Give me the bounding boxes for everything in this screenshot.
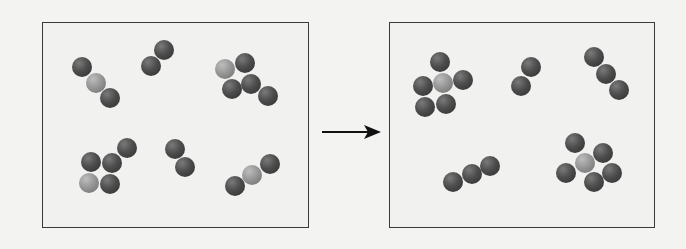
dark-atom-icon (430, 52, 450, 72)
dark-atom-icon (175, 157, 195, 177)
dark-atom-icon (584, 172, 604, 192)
light-atom-icon (433, 73, 453, 93)
dark-atom-icon (602, 163, 622, 183)
dark-atom-icon (413, 76, 433, 96)
dark-atom-icon (556, 163, 576, 183)
dark-atom-icon (225, 176, 245, 196)
dark-atom-icon (593, 143, 613, 163)
dark-atom-icon (258, 86, 278, 106)
light-atom-icon (242, 165, 262, 185)
dark-atom-icon (260, 154, 280, 174)
dark-atom-icon (609, 80, 629, 100)
dark-atom-icon (165, 139, 185, 159)
dark-atom-icon (415, 97, 435, 117)
light-atom-icon (79, 173, 99, 193)
products-panel (389, 22, 655, 228)
reactants-panel (42, 22, 309, 228)
dark-atom-icon (100, 174, 120, 194)
dark-atom-icon (235, 53, 255, 73)
dark-atom-icon (141, 56, 161, 76)
dark-atom-icon (521, 57, 541, 77)
dark-atom-icon (453, 70, 473, 90)
dark-atom-icon (480, 156, 500, 176)
dark-atom-icon (436, 94, 456, 114)
dark-atom-icon (511, 76, 531, 96)
dark-atom-icon (565, 133, 585, 153)
light-atom-icon (215, 59, 235, 79)
dark-atom-icon (443, 172, 463, 192)
reaction-arrow-icon (322, 124, 382, 140)
dark-atom-icon (462, 164, 482, 184)
light-atom-icon (575, 153, 595, 173)
dark-atom-icon (81, 152, 101, 172)
dark-atom-icon (222, 79, 242, 99)
dark-atom-icon (100, 88, 120, 108)
dark-atom-icon (102, 153, 122, 173)
dark-atom-icon (117, 138, 137, 158)
